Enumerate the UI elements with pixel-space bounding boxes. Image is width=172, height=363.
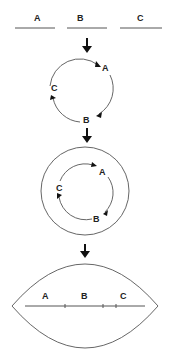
down-arrow-icon (80, 244, 90, 258)
stage3-label-b: B (93, 214, 100, 224)
arc-a-to-b (99, 75, 113, 114)
arrowhead-icon (96, 112, 102, 118)
stage4-lens: A B C (12, 264, 158, 348)
arc-a-to-b (105, 177, 113, 212)
stage1-label-a: A (34, 13, 41, 23)
arc-c-to-a (60, 164, 93, 181)
stage2-circle: A B C (50, 59, 113, 125)
stage3-label-a: A (99, 167, 106, 177)
stage4-label-c: C (120, 291, 127, 301)
stage2-label-c: C (51, 83, 58, 93)
arc-c-to-a (50, 59, 98, 86)
arrowhead-icon (95, 61, 101, 67)
diagram-canvas: A B C A B C A B C (0, 0, 172, 363)
outer-circle (41, 147, 129, 235)
stage1-label-c: C (137, 13, 144, 23)
stage4-label-a: A (42, 291, 49, 301)
stage2-label-a: A (102, 63, 109, 73)
down-arrow-icon (82, 128, 92, 143)
stage1-segments: A B C (15, 13, 162, 28)
stage1-label-b: B (77, 13, 84, 23)
stage3-enclosed-circle: A B C (41, 147, 129, 235)
arc-b-to-c (59, 197, 92, 220)
stage2-label-b: B (83, 115, 90, 125)
arc-b-to-c (53, 98, 80, 122)
down-arrow-icon (82, 38, 92, 53)
arrowhead-icon (91, 162, 97, 167)
stage4-label-b: B (81, 291, 88, 301)
stage3-label-c: C (56, 183, 63, 193)
